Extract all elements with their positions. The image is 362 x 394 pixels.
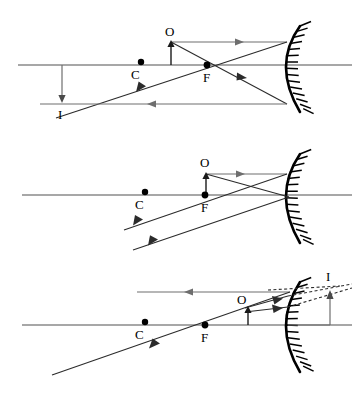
ray-arrow-lower [272,304,283,313]
ray-to-mirror-via-focus [171,42,287,104]
label-o: O [200,155,209,170]
point-f-dot [202,322,209,329]
label-c: C [135,197,144,212]
panel-3-canvas: C F O I [0,262,362,394]
label-o: O [237,292,246,307]
ray-diagram-panel-1: C F O I [0,0,362,140]
ray-through-focus [52,292,290,375]
label-c: C [131,67,140,82]
ray-arrow-left [184,289,193,296]
ray-arrow-focus [149,338,160,348]
label-o: O [165,24,174,39]
label-i: I [58,107,62,122]
mirror-hatching [286,22,314,114]
point-f-dot [202,192,209,199]
point-c-dot [138,59,144,65]
ray-arrow-right [236,171,245,178]
object-arrowhead [202,172,209,179]
point-c-dot [142,319,148,325]
ray-arrow-left-lower [147,101,156,108]
mirror-hatching [286,150,314,245]
ray-arrow-right [235,39,244,46]
ray-reflected-2 [133,197,289,250]
label-i: I [326,269,330,284]
virtual-ray-2 [288,288,352,307]
label-f: F [201,330,208,345]
image-arrowhead [58,95,65,103]
ray-object-upper [245,296,288,308]
point-c-dot [142,189,148,195]
label-f: F [203,70,210,85]
label-c: C [135,327,144,342]
point-f-dot [204,62,211,69]
ray-arrow-2 [148,235,158,245]
ray-diagram-figure: C F O I [0,0,362,394]
panel-2-canvas: C F O [0,140,362,265]
ray-diagram-panel-2: C F O [0,140,362,265]
virtual-ray-3 [268,286,340,290]
ray-diagram-panel-3: C F O I [0,262,362,394]
panel-1-canvas: C F O I [0,0,362,140]
image-arrowhead [326,290,333,299]
label-f: F [201,200,208,215]
